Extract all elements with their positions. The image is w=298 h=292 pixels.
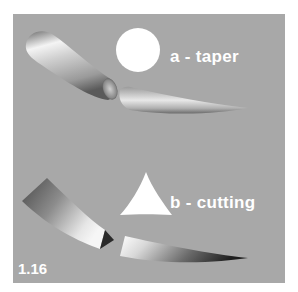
cutting-needle-body [22,178,114,249]
figure-number: 1.16 [18,260,47,277]
taper-needle-tip [119,87,248,114]
cutting-needle-tip [120,236,248,262]
taper-label: a - taper [170,47,239,67]
cutting-label: b - cutting [170,193,255,213]
needle-illustration [0,0,298,292]
taper-needle-body [26,31,121,101]
circle-cross-section-icon [116,28,160,72]
triangle-cross-section-icon [120,172,172,215]
